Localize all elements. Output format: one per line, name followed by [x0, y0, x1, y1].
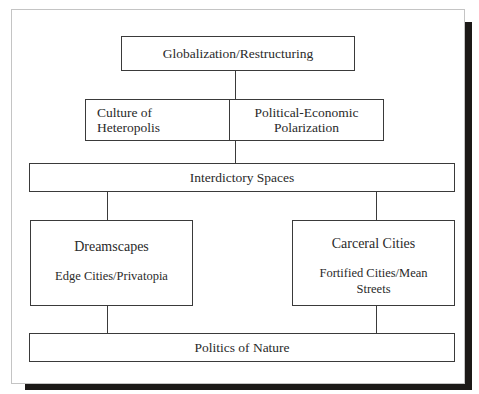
node-carceral-cities: Carceral Cities Fortified Cities/Mean St… [292, 220, 455, 306]
node-label: Globalization/Restructuring [163, 46, 314, 61]
node-globalization-restructuring: Globalization/Restructuring [121, 36, 355, 71]
node-title: Dreamscapes [74, 239, 149, 254]
node-political-economic-polarization: Political-Economic Polarization [229, 99, 384, 141]
node-label: Politics of Nature [194, 340, 289, 355]
node-label-line2: Heteropolis [97, 120, 160, 135]
connector-carceral-to-nature [376, 305, 377, 333]
node-subtitle: Edge Cities/Privatopia [55, 268, 168, 284]
node-subtitle-line2: Streets [356, 281, 390, 297]
node-label-line1: Political-Economic [254, 105, 358, 120]
node-interdictory-spaces: Interdictory Spaces [29, 163, 455, 192]
connector-top-to-middle [235, 70, 236, 100]
connector-dreamscapes-to-nature [107, 305, 108, 333]
connector-interdictory-to-dreamscapes [107, 191, 108, 220]
node-label-line1: Culture of [97, 105, 152, 120]
node-culture-of-heteropolis: Culture of Heteropolis [85, 99, 230, 141]
node-subtitle-line1: Fortified Cities/Mean [320, 265, 428, 281]
node-dreamscapes: Dreamscapes Edge Cities/Privatopia [30, 220, 193, 306]
node-title: Carceral Cities [332, 236, 416, 251]
node-label: Interdictory Spaces [190, 170, 295, 185]
connector-interdictory-to-carceral [376, 191, 377, 220]
connector-middle-to-interdictory [235, 140, 236, 163]
node-label-line2: Polarization [274, 120, 339, 135]
node-politics-of-nature: Politics of Nature [29, 333, 455, 362]
